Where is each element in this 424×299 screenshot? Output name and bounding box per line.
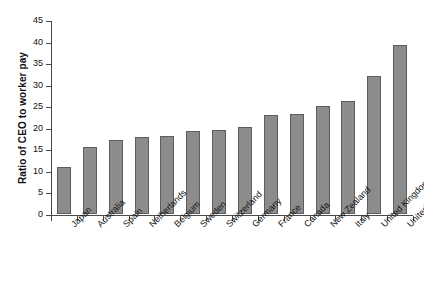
- y-tick-label: 0: [38, 209, 43, 220]
- x-axis-label: Germany: [250, 222, 257, 229]
- x-tick-mark: [129, 216, 130, 221]
- y-axis-line: [51, 21, 52, 216]
- y-tick-mark: [46, 172, 51, 173]
- y-tick-label: 5: [38, 187, 43, 198]
- x-tick-mark: [413, 216, 414, 221]
- y-tick-mark: [46, 107, 51, 108]
- bar: [135, 137, 149, 214]
- y-tick-mark: [46, 150, 51, 151]
- x-tick-mark: [180, 216, 181, 221]
- y-tick-label: 35: [33, 58, 43, 69]
- y-tick-label: 15: [33, 144, 43, 155]
- x-tick-mark: [206, 216, 207, 221]
- y-tick-label: 30: [33, 80, 43, 91]
- x-axis-label: United Kingdom: [379, 222, 386, 229]
- bar: [393, 45, 407, 214]
- x-axis-label: Switzerland: [224, 222, 231, 229]
- bar: [212, 130, 226, 214]
- y-tick-label: 10: [33, 166, 43, 177]
- x-tick-mark: [387, 216, 388, 221]
- bar: [57, 167, 71, 214]
- y-tick-mark: [46, 21, 51, 22]
- y-tick-label: 25: [33, 101, 43, 112]
- bar: [83, 147, 97, 214]
- y-tick-mark: [46, 193, 51, 194]
- x-axis-label: Spain: [121, 222, 128, 229]
- x-tick-mark: [77, 216, 78, 221]
- bar-chart-figure: Ratio of CEO to worker pay 0510152025303…: [0, 0, 424, 299]
- x-axis-label: Belgium: [172, 222, 179, 229]
- bar: [160, 136, 174, 214]
- x-tick-mark: [51, 216, 52, 221]
- y-tick-label: 40: [33, 37, 43, 48]
- bar: [290, 114, 304, 214]
- x-axis-label: Australia: [95, 222, 102, 229]
- bar: [316, 106, 330, 214]
- bar: [109, 140, 123, 214]
- y-axis-title: Ratio of CEO to worker pay: [16, 18, 30, 218]
- x-tick-mark: [103, 216, 104, 221]
- x-tick-mark: [335, 216, 336, 221]
- y-tick-label: 20: [33, 123, 43, 134]
- y-tick-mark: [46, 86, 51, 87]
- x-axis-label: Netherlands: [147, 222, 154, 229]
- bar: [238, 127, 252, 215]
- x-axis-label: Canada: [302, 222, 309, 229]
- y-tick-mark: [46, 64, 51, 65]
- x-axis-label: New Zealand: [328, 222, 335, 229]
- bar: [264, 115, 278, 214]
- y-tick-label: 45: [33, 15, 43, 26]
- x-axis-label: France: [276, 222, 283, 229]
- x-tick-mark: [232, 216, 233, 221]
- x-tick-mark: [154, 216, 155, 221]
- y-tick-mark: [46, 43, 51, 44]
- bar: [341, 101, 355, 214]
- bar: [186, 131, 200, 214]
- bar: [367, 76, 381, 214]
- plot-area: 051015202530354045: [51, 21, 413, 215]
- x-tick-mark: [258, 216, 259, 221]
- y-tick-mark: [46, 129, 51, 130]
- x-tick-mark: [361, 216, 362, 221]
- x-axis-label: Sweden: [198, 222, 205, 229]
- x-axis-label: Italy: [353, 222, 360, 229]
- x-tick-mark: [310, 216, 311, 221]
- x-axis-label: United States: [405, 222, 412, 229]
- x-tick-mark: [284, 216, 285, 221]
- x-axis-label: Japan: [69, 222, 76, 229]
